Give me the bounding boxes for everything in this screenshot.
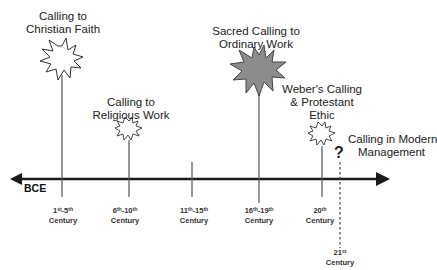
century-sup: th [322, 206, 327, 212]
century-word: Century [326, 258, 354, 268]
arrow-left-icon [10, 173, 22, 185]
event-title-christian-faith: Calling to Christian Faith [26, 10, 100, 36]
event-title-religious-work: Calling to Religious Work [92, 96, 169, 122]
century-sup: th [269, 206, 274, 212]
century-num: 20 [313, 206, 321, 215]
event-title-line: Christian Faith [26, 23, 100, 36]
bce-label: BCE [24, 182, 46, 194]
century-sup: th [68, 206, 73, 212]
century-label-1st-5th: 1st-5th Century [49, 206, 77, 226]
event-title-line: Ethic [282, 109, 362, 122]
event-title-weber: Weber's Calling & Protestant Ethic [282, 83, 362, 122]
century-sup: st [342, 248, 346, 254]
event-title-line: Management [348, 146, 437, 159]
century-label-6th-10th: 6th-10th Century [111, 206, 139, 226]
starburst-icon [308, 122, 335, 145]
century-num: 21 [334, 248, 342, 257]
century-word: Century [306, 216, 334, 226]
century-label-16th-19th: 16th-19th Century [245, 206, 274, 226]
century-word: Century [49, 216, 77, 226]
century-word: Century [180, 216, 208, 226]
century-sup: th [203, 206, 208, 212]
century-label-11th-15th: 11th-15th Century [180, 206, 208, 226]
event-title-line: Religious Work [92, 109, 169, 122]
event-title-line: Weber's Calling [282, 83, 362, 96]
century-word: Century [111, 216, 139, 226]
question-mark-icon: ? [334, 144, 344, 162]
century-num: -15 [193, 206, 204, 215]
starburst-icon [230, 45, 286, 96]
century-word: Century [245, 216, 274, 226]
event-title-line: Calling to [26, 10, 100, 23]
event-title-line: & Protestant [282, 96, 362, 109]
event-title-line: Ordinary Work [212, 38, 300, 51]
event-title-line: Calling to [92, 96, 169, 109]
century-label-21st: 21st Century [326, 248, 354, 268]
century-label-20th: 20th Century [306, 206, 334, 226]
century-num: 11 [180, 206, 188, 215]
event-title-line: Calling in Modern [348, 133, 437, 146]
century-num: -19 [258, 206, 269, 215]
century-sup: th [133, 206, 138, 212]
arrow-right-icon [376, 172, 390, 186]
event-title-line: Sacred Calling to [212, 25, 300, 38]
event-title-sacred-calling: Sacred Calling to Ordinary Work [212, 25, 300, 51]
century-num: -10 [122, 206, 133, 215]
event-title-modern-management: Calling in Modern Management [348, 133, 437, 159]
starburst-icon [40, 38, 83, 80]
